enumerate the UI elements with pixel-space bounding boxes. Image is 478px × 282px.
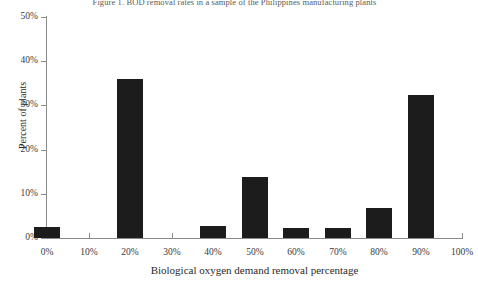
y-axis-tick-label: 30% xyxy=(4,100,38,110)
y-axis-tick-label: 20% xyxy=(4,145,38,155)
x-axis-tick-label: 40% xyxy=(193,247,233,257)
x-axis-tick-label: 20% xyxy=(110,247,150,257)
bar xyxy=(34,227,60,238)
x-axis-tick-label: 90% xyxy=(401,247,441,257)
x-axis-tick xyxy=(462,233,463,239)
bar xyxy=(325,228,351,238)
y-axis-tick-label: 10% xyxy=(4,189,38,199)
y-axis-tick-label: 50% xyxy=(4,12,38,22)
y-axis-tick-label: 40% xyxy=(4,56,38,66)
x-axis-tick-label: 70% xyxy=(318,247,358,257)
x-axis-tick-label: 10% xyxy=(69,247,109,257)
bar xyxy=(200,226,226,238)
y-axis-tick-label: 0% xyxy=(4,233,38,243)
bar xyxy=(366,208,392,238)
x-axis-tick-label: 0% xyxy=(27,247,67,257)
x-axis-tick-label: 50% xyxy=(235,247,275,257)
x-axis-title: Biological oxygen demand removal percent… xyxy=(47,264,462,276)
bar xyxy=(408,95,434,238)
bar xyxy=(117,79,143,238)
y-axis-title: Percent of plants xyxy=(17,46,28,186)
bar xyxy=(283,228,309,238)
bar xyxy=(242,177,268,238)
x-axis-tick-label: 80% xyxy=(359,247,399,257)
x-axis-tick-label: 30% xyxy=(152,247,192,257)
plot-area xyxy=(47,17,462,238)
x-axis-tick-label: 100% xyxy=(442,247,478,257)
x-axis-line xyxy=(46,238,462,239)
x-axis-tick-label: 60% xyxy=(276,247,316,257)
